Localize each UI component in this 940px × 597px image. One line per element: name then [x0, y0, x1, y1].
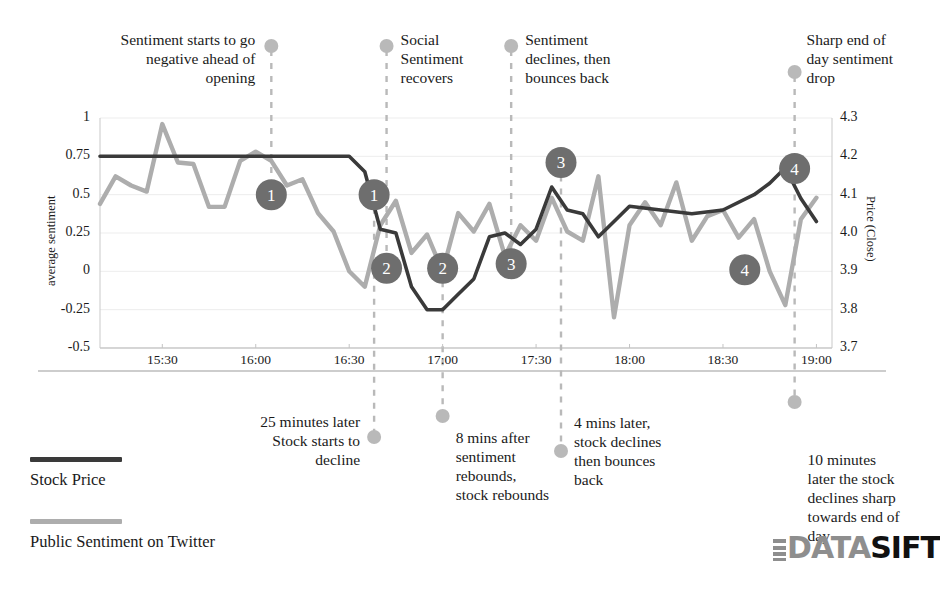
logo-text-data: DATA [787, 530, 870, 565]
y-axis-tick-1: 0.75 [44, 147, 90, 163]
marker-1-stock: 1 [359, 179, 390, 210]
svg-text:3: 3 [507, 255, 516, 274]
y2-axis-tick-0: 4.3 [840, 109, 880, 125]
gridlines [100, 118, 832, 348]
y2-axis-tick-4: 3.9 [840, 262, 880, 278]
y2-axis-title: Price (Close) [863, 196, 878, 262]
sentiment-series-line [100, 124, 816, 317]
y2-axis-tick-1: 4.2 [840, 147, 880, 163]
svg-text:1: 1 [370, 186, 379, 205]
marker-4-sentiment: 4 [729, 254, 760, 285]
x-axis-tick-2: 16:30 [319, 352, 379, 368]
legend-swatch-stock-price [30, 457, 122, 462]
legend-label-stock-price: Stock Price [30, 470, 106, 490]
datasift-logo: DATASIFT [773, 533, 940, 563]
x-axis-tick-7: 19:00 [786, 352, 846, 368]
bottom-annotation-text-0: 25 minutes later Stock starts to decline [190, 412, 360, 469]
logo-text-sift: SIFT [870, 530, 940, 565]
svg-text:2: 2 [438, 259, 447, 278]
top-annotation-text-0: Sentiment starts to go negative ahead of… [55, 30, 255, 87]
svg-text:1: 1 [267, 186, 276, 205]
top-annotation-dot-0 [264, 39, 278, 53]
top-annotation-dot-1 [380, 39, 394, 53]
svg-text:4: 4 [790, 160, 799, 179]
marker-3-stock: 3 [546, 147, 577, 178]
bottom-annotation-dot-3 [788, 395, 802, 409]
axis-tick-marks [162, 344, 816, 348]
marker-1-sentiment: 1 [256, 179, 287, 210]
marker-2-sentiment: 2 [427, 253, 458, 284]
datasift-bars-icon [773, 539, 786, 561]
bottom-annotation-dot-0 [367, 430, 381, 444]
top-annotation-dot-3 [788, 65, 802, 79]
top-annotation-text-1: Social Sentiment recovers [401, 30, 521, 87]
marker-3-sentiment: 3 [496, 248, 527, 279]
bottom-annotation-dot-1 [436, 409, 450, 423]
bottom-annotation-text-2: 4 mins later, stock declines then bounce… [574, 413, 704, 489]
svg-text:2: 2 [382, 259, 391, 278]
y-axis-tick-5: -0.25 [44, 301, 90, 317]
y2-axis-tick-5: 3.8 [840, 301, 880, 317]
svg-text:3: 3 [557, 153, 566, 172]
y-axis-tick-6: -0.5 [44, 339, 90, 355]
marker-2-stock: 2 [371, 253, 402, 284]
top-annotation-text-3: Sharp end of day sentiment drop [807, 30, 937, 87]
marker-4-stock: 4 [779, 153, 810, 184]
x-axis-tick-6: 18:30 [693, 352, 753, 368]
y-axis-tick-0: 1 [44, 109, 90, 125]
legend-swatch-public-sentiment [30, 519, 122, 524]
x-axis-tick-4: 17:30 [506, 352, 566, 368]
annotation-connector-lines [271, 50, 794, 447]
x-axis-tick-0: 15:30 [132, 352, 192, 368]
x-axis-tick-1: 16:00 [226, 352, 286, 368]
bottom-annotation-text-1: 8 mins after sentiment rebounds, stock r… [456, 428, 586, 504]
legend-label-public-sentiment: Public Sentiment on Twitter [30, 532, 215, 552]
svg-text:4: 4 [741, 261, 750, 280]
annotation-endpoint-dots [264, 39, 801, 458]
x-axis-tick-5: 18:00 [600, 352, 660, 368]
top-annotation-text-2: Sentiment declines, then bounces back [525, 30, 665, 87]
y-axis-title: average sentiment [44, 195, 59, 286]
x-axis-tick-3: 17:00 [413, 352, 473, 368]
